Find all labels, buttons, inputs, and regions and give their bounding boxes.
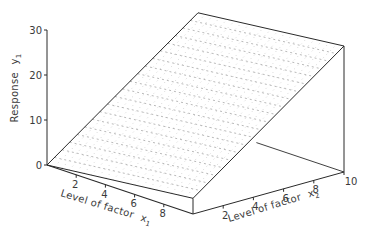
grid-line-x1 [168,43,314,76]
grid-line-x2 [149,36,300,188]
response-tick-label: 30 [29,25,42,36]
grid-line-x2 [105,26,256,178]
axes [47,30,344,214]
grid-line-x2 [142,34,293,186]
floor-edge-back [256,143,344,172]
grid-line-x1 [190,20,336,53]
grid-line-x2 [186,44,337,196]
grid-line-x2 [84,21,235,173]
grid-line-x2 [178,43,329,195]
grid-line-x1 [115,97,261,130]
surface-plot: 01020302468246810 Response y1 Level of f… [0,0,368,243]
response-tick-label: 0 [36,160,42,171]
surface-edge-right [193,46,344,198]
grid-line-x2 [54,14,205,166]
grid-line-x2 [157,38,308,190]
surface-edge-left [47,13,198,165]
grid-line-x1 [85,127,231,160]
grid-line-x1 [145,66,291,99]
surface-edge-back [198,13,344,46]
grid-line-x2 [98,24,249,176]
response-tick-label: 10 [29,115,42,126]
surface-grid [54,14,336,196]
grid-line-x2 [113,28,264,180]
hidden-floor-edges [256,143,344,172]
x2-tick-label: 10 [345,176,358,187]
grid-line-x2 [171,41,322,193]
grid-line-x1 [92,119,238,152]
response-axis-title: Response y1 [9,54,23,123]
grid-line-x2 [69,18,220,170]
surface-edges [47,13,344,214]
grid-line-x2 [127,31,278,183]
x1-tick-label: 4 [101,189,107,200]
grid-line-x2 [135,33,286,185]
grid-line-x2 [91,23,242,175]
grid-line-x1 [77,135,223,168]
x1-tick-label: 8 [160,208,166,219]
grid-line-x1 [175,36,321,69]
grid-line-x2 [120,29,271,181]
grid-line-x2 [164,39,315,191]
grid-line-x1 [130,81,276,114]
grid-line-x2 [76,19,227,171]
response-tick-label: 20 [29,70,42,81]
grid-line-x1 [183,28,329,61]
grid-line-x1 [70,142,216,175]
x1-tick-label: 2 [72,179,78,190]
